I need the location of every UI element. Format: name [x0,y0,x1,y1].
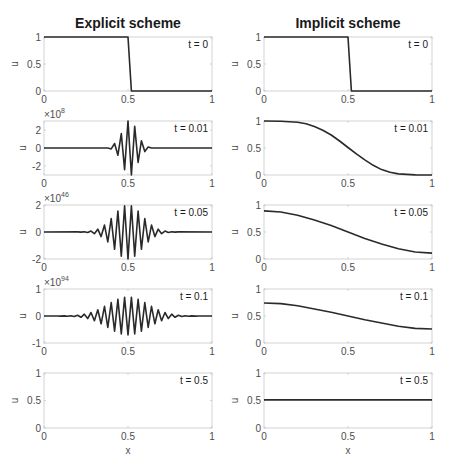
axis-exponent-power: 94 [61,275,69,282]
x-tick-label: 0 [41,94,47,105]
y-tick-label: 2 [35,125,41,136]
x-tick-label: 1 [429,262,435,273]
y-axis-label: u [9,61,20,67]
y-axis-label: u [229,398,240,404]
x-tick-label: 0.5 [121,431,135,442]
subplot-implicit-t0.5: 00.5100.51uxt = 0.5 [229,368,435,457]
x-tick-label: 0 [261,94,267,105]
subplot-explicit-t0.1: 00.51-101u×1094t = 0.1 [17,275,215,357]
y-tick-label: 1 [35,284,41,295]
y-tick-label: -2 [32,161,41,172]
x-tick-label: 1 [209,431,215,442]
y-tick-label: 1 [255,284,261,295]
x-tick-label: 1 [209,262,215,273]
x-tick-label: 0.5 [121,262,135,273]
y-tick-label: 2 [35,200,41,211]
y-tick-label: 1 [255,116,261,127]
x-tick-label: 0.5 [341,346,355,357]
y-tick-label: 1 [255,32,261,43]
y-tick-label: -1 [32,338,41,349]
subplot-explicit-t0.01: 00.51-202u×108t = 0.01 [17,107,215,189]
x-tick-label: 0.5 [341,94,355,105]
time-annotation: t = 0.05 [394,207,428,218]
subplot-explicit-t0: 00.5100.51ut = 0 [9,32,215,106]
subplot-implicit-t0.01: 00.5100.51ut = 0.01 [229,116,435,190]
y-tick-label: 0.5 [27,59,41,70]
y-axis-label: u [229,61,240,67]
x-tick-label: 0 [261,262,267,273]
time-annotation: t = 0 [188,39,208,50]
x-tick-label: 0 [261,178,267,189]
time-annotation: t = 0.5 [400,375,429,386]
y-tick-label: 0.5 [247,311,261,322]
y-tick-label: 0 [255,423,261,434]
y-tick-label: 0 [35,227,41,238]
y-tick-label: 1 [35,32,41,43]
subplot-grid: 00.5100.51ut = 000.51-202u×108t = 0.0100… [9,32,435,457]
figure-canvas: Explicit scheme Implicit scheme 00.5100.… [0,0,452,472]
x-tick-label: 0.5 [121,178,135,189]
y-tick-label: 0 [255,338,261,349]
axis-exponent-power: 46 [61,191,69,198]
y-axis-label: u [17,313,28,319]
time-annotation: t = 0.1 [400,291,429,302]
y-tick-label: 0.5 [247,143,261,154]
x-tick-label: 0.5 [341,262,355,273]
axis-exponent: ×10 [44,193,61,204]
x-tick-label: 0 [261,346,267,357]
x-tick-label: 0.5 [121,346,135,357]
y-tick-label: 0.5 [247,59,261,70]
subplot-explicit-t0.5: 00.5100.51uxt = 0.5 [9,368,215,457]
y-tick-label: 0.5 [247,395,261,406]
axis-exponent-power: 8 [61,107,65,114]
x-tick-label: 0.5 [121,94,135,105]
y-tick-label: 0 [255,86,261,97]
x-tick-label: 1 [429,431,435,442]
y-tick-label: 1 [35,368,41,379]
x-tick-label: 0.5 [341,178,355,189]
y-tick-label: 0 [35,311,41,322]
time-annotation: t = 0.05 [174,207,208,218]
y-tick-label: 0.5 [247,227,261,238]
y-axis-label: u [9,398,20,404]
y-tick-label: 0 [255,170,261,181]
y-tick-label: 0 [35,86,41,97]
x-tick-label: 0 [41,262,47,273]
y-tick-label: 1 [255,368,261,379]
x-tick-label: 0 [41,346,47,357]
y-axis-label: u [17,145,28,151]
x-tick-label: 0 [261,431,267,442]
time-annotation: t = 0.1 [180,291,209,302]
x-tick-label: 1 [429,94,435,105]
x-tick-label: 1 [429,346,435,357]
y-tick-label: 1 [255,200,261,211]
axis-exponent: ×10 [44,277,61,288]
y-tick-label: 0 [255,254,261,265]
time-annotation: t = 0 [408,39,428,50]
y-tick-label: 0 [35,143,41,154]
time-annotation: t = 0.01 [174,123,208,134]
axis-exponent: ×10 [44,109,61,120]
y-tick-label: 0.5 [27,395,41,406]
x-axis-label: x [126,445,131,456]
subplot-implicit-t0.1: 00.5100.51ut = 0.1 [229,284,435,358]
subplot-explicit-t0.05: 00.51-202u×1046t = 0.05 [17,191,215,273]
y-axis-label: u [229,313,240,319]
y-axis-label: u [17,229,28,235]
y-axis-label: u [229,229,240,235]
y-tick-label: -2 [32,254,41,265]
time-annotation: t = 0.01 [394,123,428,134]
subplot-implicit-t0: 00.5100.51ut = 0 [229,32,435,106]
x-tick-label: 1 [209,346,215,357]
time-annotation: t = 0.5 [180,375,209,386]
x-tick-label: 1 [209,94,215,105]
x-tick-label: 0.5 [341,431,355,442]
x-tick-label: 1 [209,178,215,189]
column-title-implicit: Implicit scheme [295,15,400,31]
x-axis-label: x [346,445,351,456]
x-tick-label: 1 [429,178,435,189]
subplot-implicit-t0.05: 00.5100.51ut = 0.05 [229,200,435,274]
x-tick-label: 0 [41,178,47,189]
y-axis-label: u [229,145,240,151]
column-title-explicit: Explicit scheme [75,15,181,31]
